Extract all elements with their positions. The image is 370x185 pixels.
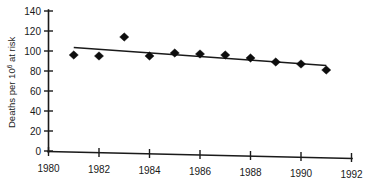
y-axis-title-text: Deaths per 10 xyxy=(6,68,17,128)
data-point-marker xyxy=(296,60,305,68)
y-tick-label-20: 20 xyxy=(30,126,42,137)
x-tick-label-1988: 1988 xyxy=(239,167,262,178)
y-tick-label-140: 140 xyxy=(24,6,41,17)
x-tick-label-1984: 1984 xyxy=(138,165,161,176)
y-axis-title-suffix: at risk xyxy=(6,36,17,64)
y-tick-label-80: 80 xyxy=(30,66,42,77)
x-axis-tick-labels: 1980 1982 1984 1986 1988 1990 1992 xyxy=(37,163,363,180)
data-point-marker xyxy=(69,51,78,59)
deaths-per-million-scatter-chart: Deaths per 106 at risk 140 120 100 80 60… xyxy=(0,0,370,185)
x-tick-label-1982: 1982 xyxy=(88,164,111,175)
y-tick-label-60: 60 xyxy=(30,86,42,97)
data-point-group xyxy=(69,33,331,74)
svg-text:Deaths per 106 at risk: Deaths per 106 at risk xyxy=(6,36,18,128)
data-point-marker xyxy=(322,66,331,74)
y-tick-label-0: 0 xyxy=(35,146,41,157)
data-point-marker xyxy=(94,52,103,60)
chart-container: Deaths per 106 at risk 140 120 100 80 60… xyxy=(0,0,370,185)
data-point-marker xyxy=(120,33,129,41)
x-tick-label-1992: 1992 xyxy=(340,169,363,180)
x-tick-label-1990: 1990 xyxy=(290,168,313,179)
y-axis-title: Deaths per 106 at risk xyxy=(6,36,18,128)
y-tick-label-120: 120 xyxy=(24,26,41,37)
y-tick-label-100: 100 xyxy=(24,46,41,57)
data-point-marker xyxy=(170,49,179,57)
data-point-marker xyxy=(271,58,280,66)
x-tick-label-1986: 1986 xyxy=(189,166,212,177)
y-tick-label-40: 40 xyxy=(30,106,42,117)
y-axis-tick-labels: 140 120 100 80 60 40 20 0 xyxy=(24,6,41,157)
x-axis-ticks xyxy=(49,147,352,162)
x-tick-label-1980: 1980 xyxy=(37,163,60,174)
